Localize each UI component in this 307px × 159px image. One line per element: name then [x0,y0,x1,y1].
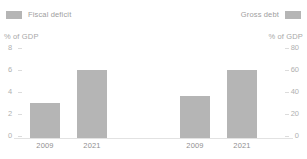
legend-swatch-fiscal-deficit [6,11,22,19]
left-tick-dash-2 [18,114,22,115]
legend-label-gross-debt: Gross debt [241,10,279,20]
right-tick-dash-20 [285,114,289,115]
chart-legend: Fiscal deficit Gross debt [0,0,307,26]
right-axis-ticks: 806040200 [283,44,305,137]
x-axis-labels: 2009 2021 2009 2021 [0,141,307,159]
left-tick-dash-0 [18,136,22,137]
bar-gross-debt-2021[interactable] [227,70,257,138]
bar-fiscal-deficit-2021[interactable] [77,70,107,138]
right-tick-dash-0 [285,136,289,137]
right-axis-unit-caption: % of GDP [268,32,303,41]
bar-fiscal-deficit-2009[interactable] [30,103,60,138]
x-label-panel2-2009: 2009 [175,141,215,150]
left-tick-dash-8 [18,48,22,49]
legend-item-gross-debt[interactable]: Gross debt [241,9,301,20]
x-label-panel1-2009: 2009 [25,141,65,150]
right-tick-dash-40 [285,92,289,93]
legend-label-fiscal-deficit: Fiscal deficit [28,10,71,20]
chart-plot-area: 86420 806040200 [0,44,307,139]
x-label-panel1-2021: 2021 [72,141,112,150]
x-label-panel2-2021: 2021 [222,141,262,150]
left-tick-dash-6 [18,70,22,71]
legend-swatch-gross-debt [285,11,301,19]
left-axis-unit-caption: % of GDP [4,32,39,41]
axis-baseline [14,138,293,139]
bar-gross-debt-2009[interactable] [180,96,210,138]
right-tick-dash-60 [285,70,289,71]
left-axis-ticks: 86420 [2,44,24,137]
left-tick-dash-4 [18,92,22,93]
legend-item-fiscal-deficit[interactable]: Fiscal deficit [6,9,71,20]
right-tick-dash-80 [285,48,289,49]
